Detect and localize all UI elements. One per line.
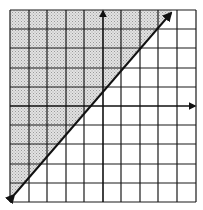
shaded-region [10, 10, 172, 197]
graph-canvas [0, 0, 203, 210]
